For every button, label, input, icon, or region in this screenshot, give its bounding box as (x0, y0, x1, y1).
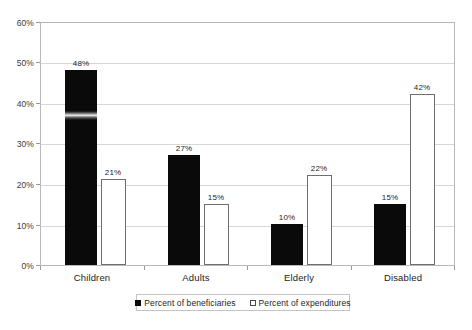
legend-label-expenditures: Percent of expenditures (259, 298, 351, 308)
hollow-square-icon (250, 300, 256, 306)
legend-label-beneficiaries: Percent of beneficiaries (144, 298, 235, 308)
x-axis-label-elderly: Elderly (259, 272, 339, 283)
y-axis-label-0: 0% (8, 261, 34, 271)
filled-square-icon (135, 300, 141, 306)
bar-label-elderly-beneficiaries: 10% (267, 213, 307, 222)
plot-area: 48% 21% 27% 15% 10% 22% 15% 42% (40, 22, 455, 266)
y-axis-label-20: 20% (8, 180, 34, 190)
x-axis-tick-4 (454, 266, 455, 270)
y-axis-label-10: 10% (8, 221, 34, 231)
legend-item-expenditures[interactable]: Percent of expenditures (250, 298, 351, 308)
gridline-50 (41, 63, 454, 64)
bar-children-expenditures[interactable] (101, 179, 126, 265)
x-axis-label-disabled: Disabled (363, 272, 443, 283)
gridline-40 (41, 104, 454, 105)
bar-chart: 60% 50% 40% 30% 20% 10% 0% 48% 21% 27% (0, 0, 472, 330)
bar-disabled-beneficiaries[interactable] (374, 204, 406, 265)
legend-item-beneficiaries[interactable]: Percent of beneficiaries (135, 298, 235, 308)
bar-adults-expenditures[interactable] (204, 204, 229, 265)
y-axis-label-50: 50% (8, 58, 34, 68)
bar-label-children-beneficiaries: 48% (61, 59, 101, 68)
bar-adults-beneficiaries[interactable] (168, 155, 200, 265)
bar-label-disabled-expenditures: 42% (402, 83, 442, 92)
bar-label-children-expenditures: 21% (93, 168, 133, 177)
x-axis-label-adults: Adults (156, 272, 236, 283)
x-axis-label-children: Children (52, 272, 132, 283)
y-axis-label-60: 60% (8, 18, 34, 28)
x-axis-tick-2 (247, 266, 248, 270)
bar-label-disabled-beneficiaries: 15% (370, 193, 410, 202)
bar-elderly-expenditures[interactable] (307, 175, 332, 265)
bar-label-adults-expenditures: 15% (196, 193, 236, 202)
x-axis-tick-0 (40, 266, 41, 270)
x-axis-tick-1 (144, 266, 145, 270)
gridline-30 (41, 144, 454, 145)
y-axis-label-40: 40% (8, 99, 34, 109)
bar-label-adults-beneficiaries: 27% (164, 144, 204, 153)
bar-elderly-beneficiaries[interactable] (271, 224, 303, 265)
bar-disabled-expenditures[interactable] (410, 94, 435, 265)
bar-label-elderly-expenditures: 22% (299, 164, 339, 173)
x-axis-tick-3 (351, 266, 352, 270)
chart-legend: Percent of beneficiaries Percent of expe… (136, 294, 350, 311)
y-axis-label-30: 30% (8, 139, 34, 149)
